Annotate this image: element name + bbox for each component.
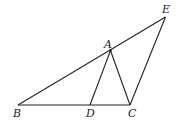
label-b: B bbox=[12, 107, 21, 120]
point-a-dot bbox=[109, 49, 112, 52]
segment-be bbox=[18, 17, 166, 105]
segment-ad bbox=[90, 51, 111, 106]
segments bbox=[18, 17, 166, 105]
label-e: E bbox=[161, 3, 170, 16]
segment-ac bbox=[111, 51, 131, 106]
label-d: D bbox=[85, 107, 95, 120]
label-a: A bbox=[103, 38, 112, 51]
label-c: C bbox=[128, 107, 137, 120]
segment-ec bbox=[130, 17, 166, 105]
diagram-svg: A B C D E bbox=[0, 0, 179, 126]
geometry-diagram: A B C D E bbox=[0, 0, 179, 126]
